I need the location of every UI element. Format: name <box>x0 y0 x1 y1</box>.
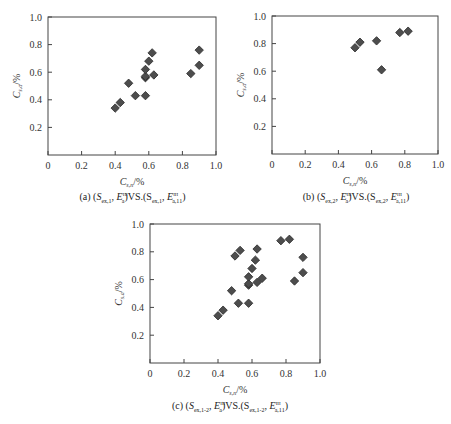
data-point-diamond <box>219 306 227 314</box>
data-point-diamond <box>290 277 298 285</box>
plot-frame <box>150 224 320 363</box>
data-point-diamond <box>277 236 285 244</box>
data-point-diamond <box>299 268 307 276</box>
data-point-diamond <box>251 256 259 264</box>
data-point-diamond <box>231 252 239 260</box>
caption-end: ) <box>285 400 288 411</box>
x-tick-label: 0.6 <box>246 368 259 379</box>
data-point-diamond <box>227 287 235 295</box>
x-tick-label: 0 <box>148 368 153 379</box>
data-point-diamond <box>244 273 252 281</box>
caption-prefix: (c) ( <box>172 400 189 411</box>
caption-c: (c) (Sex,1-2, EIIIa)VS.(Sex,1-2, EIIIa,1… <box>100 400 360 413</box>
caption-e2-sup: III <box>276 401 281 406</box>
caption-s-sub: ex,1-2 <box>194 407 209 413</box>
x-tick-label: 1.0 <box>314 368 327 379</box>
data-point-diamond <box>285 235 293 243</box>
y-tick-label: 0.4 <box>132 302 145 313</box>
x-tick-label: 0.8 <box>280 368 293 379</box>
x-axis-title: Cs,n/% <box>223 384 248 396</box>
caption-mid: )VS.(S <box>222 400 250 411</box>
data-point-diamond <box>244 299 252 307</box>
data-point-diamond <box>234 299 242 307</box>
y-axis-title: Cs,a/% <box>113 281 125 306</box>
x-tick-label: 0.4 <box>212 368 225 379</box>
y-tick-label: 0.2 <box>132 330 145 341</box>
data-point-diamond <box>214 312 222 320</box>
data-point-diamond <box>253 245 261 253</box>
data-point-diamond <box>299 253 307 261</box>
caption-e2-sub: a,11 <box>275 407 285 413</box>
y-tick-label: 0.6 <box>132 274 145 285</box>
caption-s2-sub: ex,1-2 <box>249 407 264 413</box>
data-point-diamond <box>236 246 244 254</box>
scatter-plot-c: 00.20.40.60.81.00.20.40.60.81.0Cs,n/%Cs,… <box>0 0 451 395</box>
x-tick-label: 0.2 <box>178 368 191 379</box>
chart-panel-c: 00.20.40.60.81.00.20.40.60.81.0Cs,n/%Cs,… <box>0 0 451 424</box>
y-tick-label: 0.8 <box>132 246 145 257</box>
y-tick-label: 1.0 <box>132 219 145 230</box>
data-point-diamond <box>248 264 256 272</box>
